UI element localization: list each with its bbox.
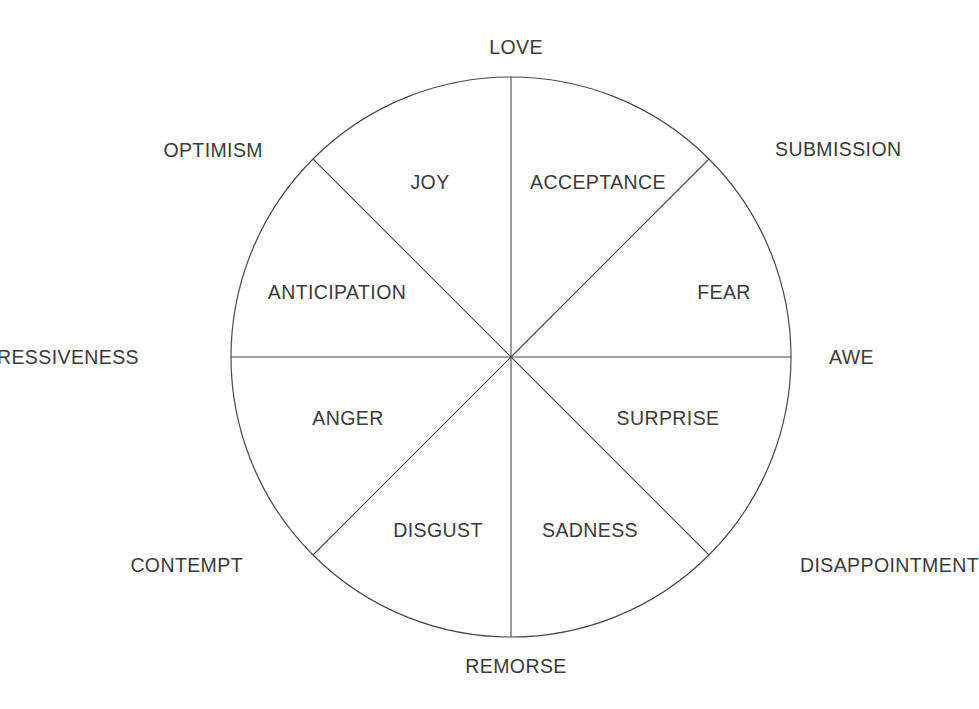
primary-emotion-label-joy: JOY — [410, 173, 449, 193]
dyad-emotion-label-optimism: OPTIMISM — [163, 141, 263, 161]
dyad-emotion-label-awe: AWE — [829, 348, 874, 368]
primary-emotion-label-acceptance: ACCEPTANCE — [530, 173, 666, 193]
dyad-emotion-label-contempt: CONTEMPT — [130, 556, 243, 576]
wheel-spokes-group — [231, 77, 791, 637]
primary-emotion-label-fear: FEAR — [697, 283, 751, 303]
primary-emotion-label-anger: ANGER — [312, 409, 383, 429]
dyad-emotion-label-disappointment: DISAPPOINTMENT — [800, 556, 979, 576]
dyad-emotion-label-submission: SUBMISSION — [775, 140, 901, 160]
dyad-emotion-label-remorse: REMORSE — [465, 657, 566, 677]
primary-emotion-label-sadness: SADNESS — [542, 521, 638, 541]
dyad-emotion-label-love: LOVE — [489, 38, 543, 58]
dyad-emotion-label-aggressiveness: AGGRESSIVENESS — [0, 348, 139, 368]
primary-emotion-label-surprise: SURPRISE — [617, 409, 720, 429]
primary-emotion-label-anticipation: ANTICIPATION — [268, 283, 406, 303]
primary-emotion-label-disgust: DISGUST — [393, 521, 482, 541]
